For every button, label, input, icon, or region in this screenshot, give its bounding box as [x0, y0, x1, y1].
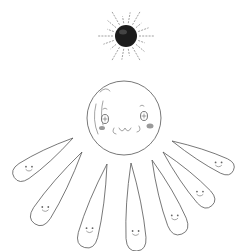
petal-outline [77, 164, 107, 248]
petal-eye [86, 227, 88, 229]
petal-eye [31, 166, 33, 168]
sun-ray [133, 47, 141, 60]
sun-ray [123, 16, 124, 23]
sun-ball [115, 25, 137, 47]
petal-eye [215, 162, 217, 164]
round-face [87, 81, 161, 155]
teardrop-petal [77, 164, 107, 248]
sun-ray [128, 49, 129, 56]
petal-eye [171, 215, 173, 217]
teardrop-petal [126, 163, 146, 251]
sun-ray [138, 28, 148, 32]
petal-eye [25, 166, 27, 168]
sun-ray [103, 40, 113, 44]
face-outline [87, 81, 161, 155]
sun-ray [128, 12, 130, 23]
right-blush [147, 124, 154, 129]
sun-ray [136, 44, 144, 51]
petal-eye [47, 206, 49, 208]
sun-ray [108, 21, 116, 28]
petal-eye [221, 162, 223, 164]
petal-eye [177, 215, 179, 217]
left-blush [99, 126, 105, 130]
sun-ray [112, 12, 120, 25]
sun-ray [112, 47, 120, 60]
sun-ray [122, 49, 124, 60]
sun-highlight [119, 30, 127, 35]
sun-ray [133, 12, 141, 25]
petal-eye [138, 230, 140, 232]
dark-sun [98, 12, 154, 60]
illustration [0, 0, 237, 251]
petal-outline [126, 163, 146, 251]
sun-ray [111, 44, 116, 48]
petal-eye [41, 206, 43, 208]
sun-ray [138, 40, 145, 42]
petal-eye [196, 191, 198, 193]
sun-ray [136, 23, 141, 27]
petal-eye [132, 230, 134, 232]
sun-ray [107, 29, 114, 31]
petal-eye [92, 227, 94, 229]
petal-eye [202, 191, 204, 193]
